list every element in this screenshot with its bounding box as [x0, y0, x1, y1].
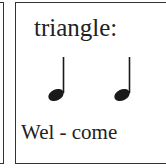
adjacent-card-border [0, 2, 4, 164]
quarter-note-icon [110, 55, 134, 103]
instrument-label: triangle: [34, 13, 117, 43]
lyrics-text: Wel - come [21, 118, 117, 146]
quarter-note-icon [44, 55, 68, 103]
